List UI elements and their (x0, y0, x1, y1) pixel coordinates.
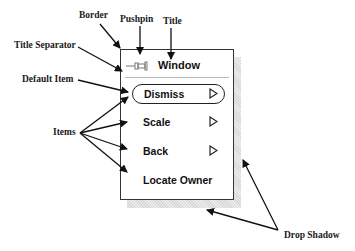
callout-arrows (0, 0, 355, 251)
